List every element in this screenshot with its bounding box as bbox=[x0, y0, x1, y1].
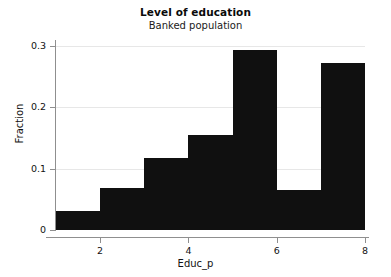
x-tick-label: 4 bbox=[173, 245, 203, 256]
y-tick-mark bbox=[50, 230, 55, 231]
chart-subtitle: Banked population bbox=[0, 19, 391, 32]
histogram-bar bbox=[188, 135, 232, 230]
x-axis-title: Educ_p bbox=[0, 258, 391, 269]
y-tick-mark bbox=[50, 169, 55, 170]
y-tick-mark bbox=[50, 46, 55, 47]
histogram-bar bbox=[144, 158, 188, 230]
y-tick-label: 0 bbox=[6, 225, 46, 235]
histogram-bar bbox=[56, 211, 100, 230]
gridline bbox=[56, 46, 365, 47]
chart-title-block: Level of education Banked population bbox=[0, 6, 391, 32]
x-tick-mark bbox=[100, 238, 101, 243]
x-tick-mark bbox=[277, 238, 278, 243]
plot-area bbox=[56, 40, 365, 230]
y-tick-label: 0.3 bbox=[6, 41, 46, 51]
histogram-bar bbox=[321, 63, 365, 230]
y-tick-label: 0.1 bbox=[6, 164, 46, 174]
x-tick-label: 8 bbox=[350, 245, 380, 256]
histogram-bar bbox=[277, 190, 321, 230]
x-tick-label: 2 bbox=[85, 245, 115, 256]
histogram-bar bbox=[233, 50, 277, 230]
histogram-bar bbox=[100, 188, 144, 230]
x-tick-label: 6 bbox=[262, 245, 292, 256]
x-tick-mark bbox=[188, 238, 189, 243]
x-tick-mark bbox=[365, 238, 366, 243]
y-tick-mark bbox=[50, 107, 55, 108]
histogram-chart: Level of education Banked population 00.… bbox=[0, 0, 391, 277]
x-axis-line bbox=[46, 237, 369, 238]
y-tick-label: 0.2 bbox=[6, 102, 46, 112]
page-title: Level of education bbox=[0, 6, 391, 19]
gridline bbox=[56, 107, 365, 108]
y-axis-title: Fraction bbox=[14, 74, 25, 174]
y-axis-line bbox=[55, 40, 56, 231]
